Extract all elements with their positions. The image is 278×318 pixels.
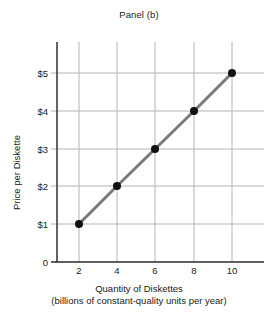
x-axis-title: Quantity of Diskettes (billions of const… xyxy=(0,283,278,307)
y-tick-label-4: $4 xyxy=(18,106,48,117)
data-point xyxy=(190,107,198,115)
y-tick-label-2: $2 xyxy=(18,181,48,192)
x-tick-label-4: 4 xyxy=(114,265,119,276)
data-point xyxy=(228,69,236,77)
x-axis-title-main: Quantity of Diskettes xyxy=(95,283,183,294)
y-tick-label-3: $3 xyxy=(18,144,48,155)
x-axis-title-sub: (billions of constant-quality units per … xyxy=(0,295,278,307)
data-point xyxy=(75,220,83,228)
x-tick-label-8: 8 xyxy=(191,265,196,276)
data-point xyxy=(113,182,121,190)
y-tick-label-5: $5 xyxy=(18,68,48,79)
x-tick-label-6: 6 xyxy=(152,265,157,276)
chart-figure: Panel (b) xyxy=(0,0,278,318)
y-axis-title: Price per Diskette xyxy=(11,93,22,253)
x-tick-label-2: 2 xyxy=(76,265,81,276)
x-tick-label-10: 10 xyxy=(227,265,238,276)
data-point xyxy=(151,145,159,153)
y-tick-label-1: $1 xyxy=(18,219,48,230)
y-tick-label-0: 0 xyxy=(18,257,48,268)
